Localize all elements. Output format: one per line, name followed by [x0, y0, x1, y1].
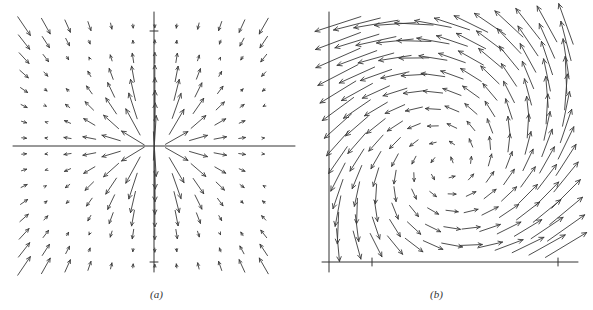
- panel-b-caption: (b): [430, 288, 443, 300]
- vector-field-figure: [0, 0, 593, 310]
- panel-a-vector-field: [13, 12, 295, 275]
- panel-b-vector-field: [315, 4, 586, 272]
- panel-a-caption: (a): [150, 288, 163, 300]
